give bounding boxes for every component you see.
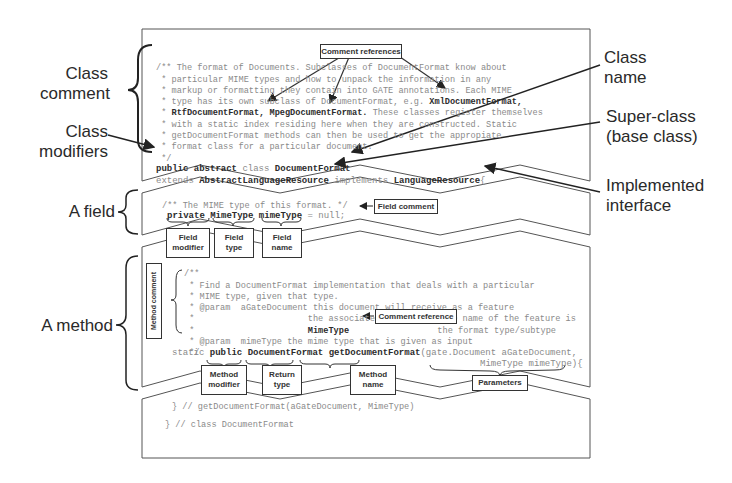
method-modifier: public bbox=[210, 348, 248, 358]
label-line: Class bbox=[604, 48, 647, 68]
callout-line: Field bbox=[179, 233, 198, 243]
callout-line: Field bbox=[273, 233, 292, 243]
static-keyword: static bbox=[172, 348, 210, 358]
code-line: * markup or formatting they contain into… bbox=[156, 86, 543, 97]
parameters-line-2: MimeType mimeType){ bbox=[480, 359, 583, 370]
code-line: * type has its own subclass of DocumentF… bbox=[156, 97, 543, 108]
method-end-code: } // getDocumentFormat(aGateDocument, Mi… bbox=[172, 402, 414, 413]
callout-parameters: Parameters bbox=[472, 375, 528, 391]
code-text: the format type/subtype bbox=[427, 326, 556, 336]
code-line: /** bbox=[184, 269, 576, 280]
field-modifier: private bbox=[167, 211, 210, 221]
code-line: public abstract class DocumentFormat bbox=[156, 164, 485, 175]
implements-keyword: implements bbox=[329, 176, 394, 186]
callout-method-name: Methodname bbox=[350, 365, 396, 395]
callout-field-comment: Field comment bbox=[374, 199, 438, 214]
class-name: DocumentFormat bbox=[275, 164, 351, 174]
code-text: * bbox=[156, 108, 171, 118]
label-line: (base class) bbox=[606, 127, 698, 147]
extends-keyword: extends bbox=[156, 176, 199, 186]
class-keyword: class bbox=[242, 164, 274, 174]
super-class: AbstractLanguageResource bbox=[199, 176, 329, 186]
method-name: getDocumentFormat bbox=[329, 348, 421, 358]
code-text: These classes register themselves bbox=[367, 108, 542, 118]
callout-line: Method bbox=[359, 370, 387, 380]
field-type: MimeType bbox=[210, 211, 259, 221]
callout-text: Method comment bbox=[149, 272, 159, 330]
code-line: * particular MIME types and how to unpac… bbox=[156, 75, 543, 86]
callout-field-name: Fieldname bbox=[262, 228, 302, 258]
return-type: DocumentFormat bbox=[248, 348, 329, 358]
code-line: * MIME type, given that type. bbox=[184, 292, 576, 303]
code-line: * RtfDocumentFormat, MpegDocumentFormat.… bbox=[156, 108, 543, 119]
label-line: Super-class bbox=[606, 107, 698, 127]
method-declaration: static public DocumentFormat getDocument… bbox=[172, 348, 577, 359]
callout-return-type: Returntype bbox=[262, 365, 302, 395]
label-line: comment bbox=[40, 84, 108, 104]
label-class-modifiers: Class modifiers bbox=[30, 122, 108, 162]
comment-ref-xml: XmlDocumentFormat, bbox=[429, 97, 522, 107]
callout-line: type bbox=[226, 243, 242, 253]
label-super-class: Super-class (base class) bbox=[606, 107, 698, 147]
code-text: = null; bbox=[302, 211, 345, 221]
label-line: Class bbox=[30, 122, 108, 142]
label-class-name: Class name bbox=[604, 48, 647, 88]
parameters-line-1: (gate.Document aGateDocument, bbox=[420, 348, 577, 358]
code-line: /** The format of Documents. Subclasses … bbox=[156, 63, 543, 74]
code-line: extends AbstractLanguageResource impleme… bbox=[156, 176, 485, 187]
callout-method-comment: Method comment bbox=[146, 263, 162, 339]
class-end-code: } // class DocumentFormat bbox=[165, 420, 294, 431]
callout-field-modifier: Fieldmodifier bbox=[166, 228, 210, 258]
callout-comment-reference: Comment reference bbox=[375, 309, 457, 324]
class-modifiers: public abstract bbox=[156, 164, 242, 174]
code-line: * with a static index residing here when… bbox=[156, 120, 543, 131]
callout-line: modifier bbox=[208, 380, 240, 390]
label-line: interface bbox=[606, 196, 704, 216]
comment-ref-mpeg: MpegDocumentFormat. bbox=[269, 108, 367, 118]
callout-field-type: Fieldtype bbox=[214, 228, 254, 258]
callout-line: name bbox=[363, 380, 384, 390]
code-line: * @param mimeType the mime type that is … bbox=[184, 337, 576, 348]
implemented-interface: LanguageResource bbox=[394, 176, 480, 186]
callout-method-modifier: Methodmodifier bbox=[201, 365, 247, 395]
label-line: Class bbox=[40, 64, 108, 84]
callout-line: name bbox=[272, 243, 293, 253]
callout-comment-references: Comment references bbox=[320, 44, 402, 59]
code-line: * MimeType the format type/subtype bbox=[184, 326, 576, 337]
code-text: * bbox=[184, 326, 308, 336]
callout-line: type bbox=[274, 380, 290, 390]
class-declaration: public abstract class DocumentFormatexte… bbox=[156, 153, 485, 198]
field-declaration: private MimeType mimeType = null; bbox=[167, 211, 345, 222]
label-implemented-interface: Implemented interface bbox=[606, 176, 704, 216]
label-a-field: A field bbox=[30, 202, 115, 222]
comment-ref-rtf: RtfDocumentFormat, bbox=[171, 108, 264, 118]
code-text: { bbox=[480, 176, 485, 186]
callout-line: Field bbox=[225, 233, 244, 243]
callout-line: modifier bbox=[172, 243, 204, 253]
code-text: * type has its own subclass of DocumentF… bbox=[156, 97, 429, 107]
label-line: modifiers bbox=[30, 142, 108, 162]
label-a-method: A method bbox=[20, 316, 113, 336]
field-name: mimeType bbox=[259, 211, 302, 221]
code-line: * getDocumentFormat methods can then be … bbox=[156, 131, 543, 142]
callout-line: Return bbox=[269, 370, 295, 380]
code-line: * format class for a particular document… bbox=[156, 142, 543, 153]
code-line: * Find a DocumentFormat implementation t… bbox=[184, 281, 576, 292]
label-line: name bbox=[604, 68, 647, 88]
label-class-comment: Class comment bbox=[40, 64, 108, 104]
comment-ref-mimetype: MimeType bbox=[308, 326, 349, 336]
label-line: Implemented bbox=[606, 176, 704, 196]
callout-line: Method bbox=[210, 370, 238, 380]
